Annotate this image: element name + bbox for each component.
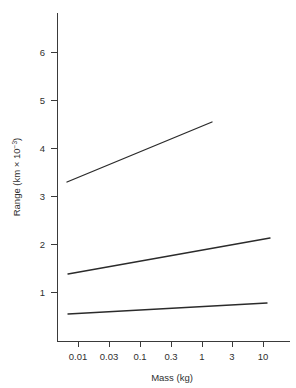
chart-figure: 1 2 3 4 5 6 0.01 0.03 0.1 0.3 1 3 10 [0, 0, 296, 388]
y-axis-title: Range (km × 10−3) [11, 138, 23, 217]
y-tick-label-2: 2 [40, 239, 45, 250]
y-tick-label-6: 6 [40, 47, 45, 58]
y-axis-title-paren: ) [11, 138, 22, 141]
y-tick-label-5: 5 [40, 95, 45, 106]
x-tick-marks [79, 342, 264, 348]
y-tick-label-1: 1 [40, 287, 45, 298]
y-axis-title-group: Range (km × 10−3) [11, 138, 23, 217]
y-axis-title-main: Range (km × 10 [11, 148, 22, 216]
y-tick-label-3: 3 [40, 191, 45, 202]
y-tick-label-4: 4 [40, 143, 45, 154]
x-tick-labels: 0.01 0.03 0.1 0.3 1 3 10 [69, 351, 269, 362]
axes-group [58, 13, 291, 342]
x-tick-label-5: 3 [229, 351, 234, 362]
x-tick-label-1: 0.03 [100, 351, 119, 362]
x-tick-label-4: 1 [199, 351, 204, 362]
line-chart-plot: 1 2 3 4 5 6 0.01 0.03 0.1 0.3 1 3 10 [0, 0, 296, 388]
series-line-lower [68, 303, 267, 314]
x-tick-label-3: 0.3 [164, 351, 177, 362]
x-tick-label-6: 10 [258, 351, 269, 362]
y-tick-marks [51, 53, 58, 293]
y-tick-labels: 1 2 3 4 5 6 [40, 47, 45, 298]
series-line-middle [68, 238, 270, 274]
x-tick-label-0: 0.01 [69, 351, 88, 362]
data-series-group [67, 122, 270, 314]
series-line-upper [67, 122, 212, 182]
x-tick-label-2: 0.1 [133, 351, 146, 362]
x-axis-title: Mass (kg) [151, 372, 193, 383]
